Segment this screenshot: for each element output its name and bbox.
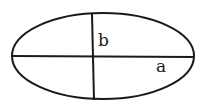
ellipse-diagram: b a [0, 0, 206, 104]
label-a: a [156, 56, 166, 76]
minor-axis-line [92, 14, 94, 100]
label-b: b [98, 30, 109, 50]
major-axis-line [12, 56, 194, 57]
